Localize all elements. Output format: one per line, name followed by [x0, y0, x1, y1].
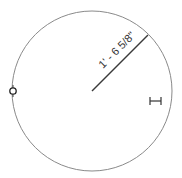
drawing-canvas[interactable]: 1' - 6 5/8": [0, 0, 182, 178]
radius-dimension-label[interactable]: 1' - 6 5/8": [96, 29, 137, 70]
drawing-svg: 1' - 6 5/8": [0, 0, 182, 178]
control-point-grip-icon[interactable]: [10, 85, 16, 97]
i-beam-width-icon[interactable]: [150, 97, 161, 105]
